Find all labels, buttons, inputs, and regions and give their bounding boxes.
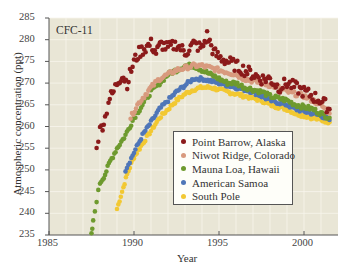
- legend-marker-icon: [181, 180, 186, 185]
- legend-marker-icon: [181, 139, 186, 144]
- y-tick-label: 270: [19, 76, 35, 87]
- y-tick-label: 235: [19, 228, 35, 239]
- legend-label: Mauna Loa, Hawaii: [192, 163, 280, 175]
- legend-item-american-samoa: American Samoa: [181, 176, 292, 190]
- x-tick-label: 1995: [207, 237, 228, 248]
- y-tick-label: 250: [19, 163, 35, 174]
- legend-item-niwot-ridge: Niwot Ridge, Colorado: [181, 149, 292, 163]
- legend-marker-icon: [181, 153, 186, 158]
- x-tick-label: 1990: [122, 237, 143, 248]
- chart-title: CFC-11: [56, 24, 93, 36]
- y-tick-label: 265: [19, 98, 35, 109]
- legend-marker-icon: [181, 194, 186, 199]
- legend-item-south-pole: South Pole: [181, 189, 292, 203]
- y-tick-label: 275: [19, 54, 35, 65]
- y-tick-label: 240: [19, 206, 35, 217]
- legend-label: American Samoa: [192, 177, 268, 189]
- legend-item-point-barrow: Point Barrow, Alaska: [181, 135, 292, 149]
- x-tick-label: 1985: [37, 237, 58, 248]
- x-tick-label: 2000: [292, 237, 313, 248]
- legend-item-mauna-loa: Mauna Loa, Hawaii: [181, 162, 292, 176]
- x-axis-label: Year: [177, 252, 197, 264]
- legend-marker-icon: [181, 166, 186, 171]
- y-tick-label: 255: [19, 141, 35, 152]
- legend: Point Barrow, Alaska Niwot Ridge, Colora…: [173, 131, 293, 205]
- y-tick-label: 280: [19, 33, 35, 44]
- legend-label: Niwot Ridge, Colorado: [192, 149, 295, 161]
- y-tick-label: 260: [19, 120, 35, 131]
- legend-label: South Pole: [192, 190, 240, 202]
- y-tick-label: 245: [19, 185, 35, 196]
- y-tick-label: 285: [19, 11, 35, 22]
- legend-label: Point Barrow, Alaska: [192, 136, 286, 148]
